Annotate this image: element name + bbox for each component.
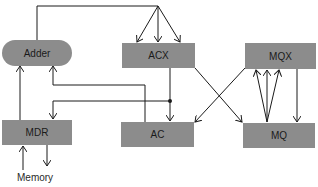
node-ac: AC [121,122,194,147]
datapath-diagram: Adder ACX MQX MDR AC MQ Memory [0,0,318,187]
acx-to-mdr-line [53,101,170,119]
memory-label: Memory [17,172,53,183]
junction-dot [168,99,172,103]
node-adder: Adder [2,40,72,66]
adder-to-acx-line [37,6,158,40]
node-mqx: MQX [245,43,316,69]
node-mdr-label: MDR [26,127,49,138]
node-acx: ACX [122,43,195,68]
node-mqx-label: MQX [269,51,292,62]
node-mq-label: MQ [271,130,287,141]
ac-to-adder-line [53,66,145,122]
connector-lines [0,0,318,187]
node-mq: MQ [243,123,315,148]
node-acx-label: ACX [148,50,169,61]
node-ac-label: AC [151,129,165,140]
node-mdr: MDR [2,120,72,145]
node-adder-label: Adder [24,48,51,59]
